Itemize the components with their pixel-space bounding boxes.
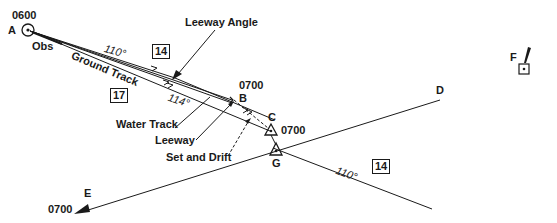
- water-track-line: [30, 31, 232, 103]
- water-track-label: Water Track: [116, 119, 178, 130]
- set-and-drift-label: Set and Drift: [166, 152, 231, 163]
- speed-box-lower: 14: [372, 159, 390, 174]
- line-d-e: [85, 100, 440, 211]
- direction-arrows: [151, 66, 252, 115]
- arrowhead-icon-e: [74, 204, 90, 214]
- point-a-note: Obs: [32, 41, 53, 52]
- point-c-time: 0700: [281, 125, 305, 136]
- point-f-letter: F: [510, 52, 517, 63]
- fix-circle-icon-a: [22, 24, 34, 36]
- point-e-letter: E: [84, 188, 91, 199]
- point-d-letter: D: [436, 85, 444, 96]
- point-g-letter: G: [272, 158, 281, 169]
- fix-square-icon-f: [519, 47, 531, 74]
- set-drift-dashed-line: [234, 100, 268, 128]
- ground-track-line: [30, 31, 270, 131]
- point-c-letter: C: [268, 112, 276, 123]
- point-b-letter: B: [239, 93, 247, 104]
- leeway-label: Leeway: [155, 135, 195, 146]
- speed-box-upper: 14: [152, 44, 170, 59]
- point-a-letter: A: [8, 25, 16, 36]
- point-e-time: 0700: [48, 204, 72, 215]
- speed-box-left: 17: [110, 88, 128, 103]
- set-drift-pointer: [228, 122, 248, 156]
- point-a-time: 0600: [12, 10, 36, 21]
- leeway-pointer: [196, 103, 232, 140]
- point-b-time: 0700: [239, 80, 263, 91]
- leeway-angle-pointer: [178, 30, 215, 74]
- leeway-angle-label: Leeway Angle: [185, 17, 258, 28]
